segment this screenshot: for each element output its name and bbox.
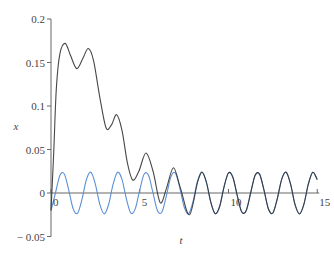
series-lines [51,43,317,214]
y-tick-label: − 0.05 [17,231,46,243]
y-tick-label: 0.15 [26,57,46,69]
y-tick-label: 0.05 [26,144,46,156]
y-tick-label: 0.2 [31,13,45,25]
chart: − 0.0500.050.10.150.2051015tx [0,0,334,257]
x-tick-label: 15 [319,196,331,208]
series-line-full-solution [51,43,317,214]
y-axis-label: x [13,120,19,132]
y-tick-label: 0 [40,187,46,199]
x-axis-label: t [179,234,183,246]
y-tick-label: 0.1 [31,100,45,112]
x-tick-label: 5 [142,196,148,208]
x-tick-label: 0 [53,196,59,208]
axis-labels: − 0.0500.050.10.150.2051015tx [13,13,331,246]
x-tick-label: 10 [231,196,243,208]
